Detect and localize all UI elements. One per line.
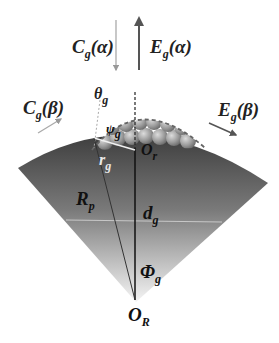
d-g-label: dg: [143, 203, 159, 226]
phi-label: Φg: [140, 262, 161, 285]
theta-label: θg: [94, 86, 108, 106]
e-beta-arrow: [209, 123, 236, 135]
r-p-label: Rp: [76, 189, 95, 212]
c-alpha-label: Cg(α): [72, 37, 114, 60]
diagram: Cg(α) Eg(α) Cg(β) Eg(β) θg ψg Or rg Rp d…: [0, 0, 279, 343]
r-g-label: rg: [99, 152, 111, 172]
diagram-graphic: [0, 0, 279, 343]
psi-label: ψg: [106, 122, 121, 140]
c-beta-label: Cg(β): [23, 98, 64, 121]
e-alpha-label: Eg(α): [150, 37, 192, 60]
e-beta-label: Eg(β): [218, 100, 259, 123]
o-r-label: Or: [141, 142, 157, 162]
o-R-label: OR: [128, 305, 150, 328]
